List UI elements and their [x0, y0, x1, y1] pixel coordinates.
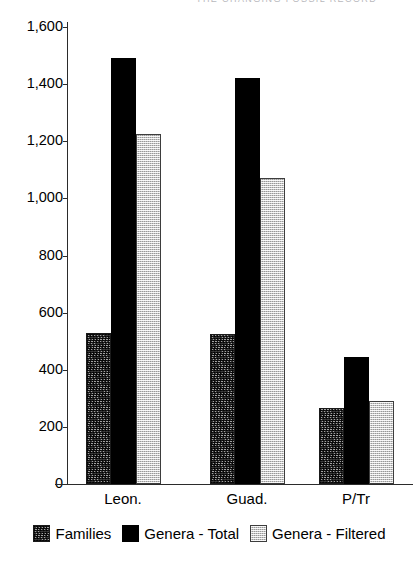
legend-item: Genera - Total: [122, 525, 239, 542]
x-axis-tick-label: Guad.: [187, 489, 307, 509]
x-axis-tick-label: P/Tr: [296, 489, 416, 509]
y-axis-tick-mark: [63, 427, 68, 428]
running-header-text: THE CHANGING FOSSIL RECORD: [196, 0, 410, 4]
legend-item: Families: [33, 525, 111, 542]
y-axis-tick-label: 800: [3, 248, 63, 263]
y-axis-tick-mark: [63, 141, 68, 142]
y-axis-tick-mark: [63, 198, 68, 199]
y-axis-tick-mark: [63, 313, 68, 314]
bar-chart: THE CHANGING FOSSIL RECORD 1,6001,4001,2…: [0, 0, 419, 562]
y-axis-tick-label: 1,400: [3, 76, 63, 91]
y-axis-tick-label: 600: [3, 305, 63, 320]
y-axis-tick-labels: 1,6001,4001,2001,0008006004002000: [0, 0, 63, 562]
y-axis-tick-mark: [63, 370, 68, 371]
running-header: THE CHANGING FOSSIL RECORD: [196, 0, 410, 5]
bar-families-p-tr: [319, 408, 344, 484]
x-axis-tick-labels: Leon.Guad.P/Tr: [0, 489, 419, 513]
y-axis-tick-mark: [63, 256, 68, 257]
legend-label: Families: [55, 525, 111, 542]
x-axis-tick-label: Leon.: [63, 489, 183, 509]
y-axis-tick-mark: [63, 84, 68, 85]
y-axis-tick-mark: [63, 27, 68, 28]
legend-item: Genera - Filtered: [250, 525, 385, 542]
legend-swatch-icon: [33, 525, 50, 542]
bar-group: [68, 20, 412, 484]
bar-genera-total-p-tr: [344, 357, 369, 484]
x-axis-line: [55, 484, 413, 485]
y-axis-tick-label: 1,600: [3, 19, 63, 34]
legend-label: Genera - Total: [144, 525, 239, 542]
y-axis-tick-label: 1,200: [3, 133, 63, 148]
legend-swatch-icon: [250, 525, 267, 542]
legend-swatch-icon: [122, 525, 139, 542]
y-axis-tick-label: 200: [3, 419, 63, 434]
bar-genera-filtered-p-tr: [369, 401, 394, 484]
legend-label: Genera - Filtered: [272, 525, 385, 542]
plot-area: [68, 20, 412, 484]
y-axis-tick-label: 1,000: [3, 190, 63, 205]
y-axis-tick-mark: [63, 484, 68, 485]
chart-legend: FamiliesGenera - TotalGenera - Filtered: [0, 520, 419, 546]
y-axis-tick-label: 400: [3, 362, 63, 377]
